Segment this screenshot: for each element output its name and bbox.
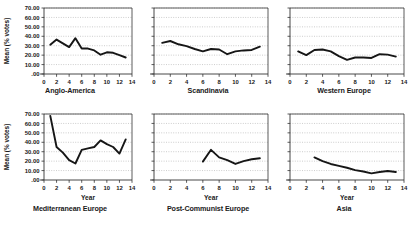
x-tick-label: 8 [218, 79, 222, 85]
x-tick-label: 10 [104, 79, 111, 85]
y-tick-label: 50.00 [25, 130, 40, 136]
x-tick-label: 4 [321, 79, 325, 85]
y-tick-label: 30.00 [25, 43, 40, 49]
x-tick-label: 12 [116, 185, 123, 191]
x-axis-title: Year [204, 194, 218, 201]
x-tick-label: 0 [152, 185, 156, 191]
panel-caption-5: Post-Communist Europe [140, 204, 276, 213]
panel-caption-6: Asia [276, 204, 412, 213]
x-tick-label: 6 [337, 185, 341, 191]
y-tick-label: 20.00 [25, 52, 40, 58]
y-tick-label: 70.00 [25, 5, 40, 11]
y-tick-label: 10.00 [25, 62, 40, 68]
y-axis-title: Mean (% votes) [3, 18, 11, 65]
y-tick-label: 70.00 [25, 111, 40, 117]
panel-caption-3: Western Europe [276, 86, 412, 95]
x-tick-label: 0 [42, 79, 46, 85]
x-tick-label: 14 [129, 79, 136, 85]
x-tick-label: 10 [232, 79, 239, 85]
x-tick-label: 14 [401, 79, 408, 85]
x-tick-label: 4 [185, 79, 189, 85]
x-tick-label: 12 [384, 185, 391, 191]
x-tick-label: 10 [368, 185, 375, 191]
y-axis-title: Mean (% votes) [3, 124, 11, 171]
x-tick-label: 10 [232, 185, 239, 191]
x-tick-label: 14 [401, 185, 408, 191]
x-tick-label: 2 [169, 185, 173, 191]
x-tick-label: 2 [305, 79, 309, 85]
x-tick-label: 4 [321, 185, 325, 191]
y-tick-label: 30.00 [25, 149, 40, 155]
data-series-line [298, 49, 396, 59]
x-tick-label: 12 [248, 79, 255, 85]
y-tick-label: .00 [31, 177, 40, 183]
x-tick-label: 14 [129, 185, 136, 191]
x-tick-label: 6 [337, 79, 341, 85]
panel-caption-2: Scandinavia [140, 86, 276, 95]
x-tick-label: 2 [55, 79, 59, 85]
x-tick-label: 0 [152, 79, 156, 85]
x-tick-label: 2 [305, 185, 309, 191]
x-tick-label: 12 [248, 185, 255, 191]
x-tick-label: 8 [354, 185, 358, 191]
x-tick-label: 2 [55, 185, 59, 191]
y-tick-label: 10.00 [25, 168, 40, 174]
data-series-line [314, 157, 395, 173]
x-tick-label: 6 [80, 79, 84, 85]
x-tick-label: 0 [42, 185, 46, 191]
x-axis-title: Year [340, 194, 354, 201]
x-tick-label: 4 [185, 185, 189, 191]
y-tick-label: 20.00 [25, 158, 40, 164]
x-tick-label: 8 [93, 79, 97, 85]
panel-caption-4: Mediterranean Europe [0, 204, 140, 213]
x-tick-label: 6 [201, 185, 205, 191]
data-series-line [50, 116, 125, 164]
data-series-line [50, 38, 125, 57]
x-tick-label: 4 [68, 185, 72, 191]
x-tick-label: 0 [288, 185, 292, 191]
y-tick-label: 40.00 [25, 33, 40, 39]
x-tick-label: 8 [93, 185, 97, 191]
y-tick-label: 40.00 [25, 139, 40, 145]
x-tick-label: 8 [354, 79, 358, 85]
x-tick-label: 12 [116, 79, 123, 85]
panel-caption-1: Anglo-America [0, 86, 140, 95]
x-tick-label: 10 [368, 79, 375, 85]
y-tick-label: 60.00 [25, 15, 40, 21]
x-tick-label: 8 [218, 185, 222, 191]
multi-panel-line-chart-figure: .0010.0020.0030.0040.0050.0060.0070.0002… [0, 0, 412, 230]
x-tick-label: 14 [265, 185, 272, 191]
x-tick-label: 12 [384, 79, 391, 85]
x-tick-label: 6 [201, 79, 205, 85]
data-series-line [162, 41, 260, 54]
x-tick-label: 2 [169, 79, 173, 85]
y-tick-label: 60.00 [25, 121, 40, 127]
x-tick-label: 6 [80, 185, 84, 191]
x-axis-title: Year [81, 194, 95, 201]
y-tick-label: 50.00 [25, 24, 40, 30]
x-tick-label: 0 [288, 79, 292, 85]
x-tick-label: 10 [104, 185, 111, 191]
y-tick-label: .00 [31, 71, 40, 77]
x-tick-label: 4 [68, 79, 72, 85]
x-tick-label: 14 [265, 79, 272, 85]
